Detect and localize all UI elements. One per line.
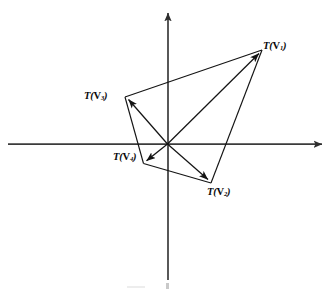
polygon-edges xyxy=(125,50,262,183)
vector-to-v3 xyxy=(129,100,168,145)
vector-transform-figure: T(V1) T(V2) T(V3) T(V4) xyxy=(0,0,334,291)
edge-v2-v1 xyxy=(211,50,262,183)
label-t-v3: T(V3) xyxy=(84,91,107,102)
scan-artifact-faint xyxy=(127,286,145,288)
label-t-v1: T(V1) xyxy=(263,41,286,52)
label-t-v4: T(V4) xyxy=(113,152,136,163)
origin-vectors xyxy=(129,54,260,180)
edge-v1-v3 xyxy=(125,50,262,97)
vector-to-v2 xyxy=(168,144,209,180)
label-t-v2: T(V2) xyxy=(207,187,230,198)
vector-to-v4 xyxy=(147,144,168,161)
scan-artifact xyxy=(166,283,169,289)
